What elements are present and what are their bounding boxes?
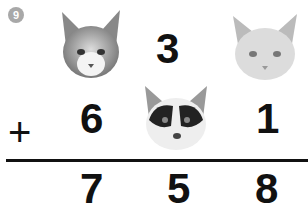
row1-tens-digit: 3 [156,28,179,70]
plus-sign: + [8,112,31,152]
row2-ones-digit: 1 [256,98,279,140]
problem-number-badge: 9 [8,7,24,23]
result-tens-digit: 5 [167,168,190,207]
cat-face-light-icon [229,10,301,82]
result-ones-digit: 8 [255,168,278,207]
cat-face-black-white-icon [141,80,211,152]
result-hundreds-digit: 7 [80,168,103,207]
row2-hundreds-digit: 6 [80,98,103,140]
cat-face-tabby-icon [54,8,128,82]
sum-line [6,159,308,162]
